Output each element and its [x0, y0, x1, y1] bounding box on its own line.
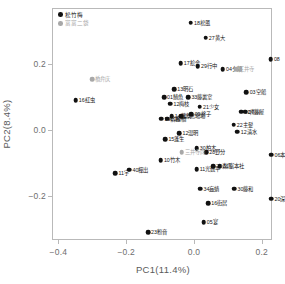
scatter-point[interactable]: [73, 98, 78, 103]
y-axis-title: PC2(8.4%): [1, 99, 12, 148]
scatter-point-label: 12温明: [182, 130, 198, 136]
scatter-point[interactable]: [180, 150, 185, 155]
scatter-point[interactable]: [179, 114, 184, 119]
scatter-point[interactable]: [235, 129, 240, 134]
scatter-point-label: 25念場場: [184, 113, 205, 119]
scatter-point-label: 20深夏: [275, 196, 285, 202]
scatter-point[interactable]: [231, 122, 236, 127]
scatter-point-label: 11宇: [119, 170, 130, 176]
scatter-point-label: 06本輪花: [275, 152, 285, 158]
scatter-point-label: 33藤裏室: [191, 94, 212, 100]
scatter-point[interactable]: [243, 109, 248, 114]
scatter-point[interactable]: [198, 187, 203, 192]
scatter-point[interactable]: [163, 137, 168, 142]
pca-scatter-chart: −0.4−0.20.00.20.20.0−0.2 PC1(11.4%) PC2(…: [0, 0, 285, 284]
scatter-point-label: 12梅枝: [174, 101, 190, 107]
y-tick-mark: [48, 130, 52, 131]
scatter-point-label: 橋弁庆: [95, 76, 110, 82]
scatter-point-label: 10竹木: [164, 157, 180, 163]
y-tick-label: −0.2: [24, 191, 46, 201]
scatter-point[interactable]: [234, 67, 239, 72]
scatter-point[interactable]: [269, 152, 274, 157]
scatter-point-label: 34蝱蜻: [204, 186, 220, 192]
scatter-point[interactable]: [172, 87, 177, 92]
scatter-point-label: 23粉音: [151, 229, 167, 235]
scatter-point-label: 16街居: [211, 200, 227, 206]
scatter-point-label: 15蓬生: [168, 136, 184, 142]
scatter-point-label: 03空船: [250, 89, 266, 95]
scatter-point-label: 01鯖魚: [167, 94, 183, 100]
scatter-point-label: 30藤和: [238, 186, 254, 192]
x-tick-label: −0.2: [117, 247, 135, 257]
scatter-point[interactable]: [244, 90, 249, 95]
x-tick-label: 0.2: [256, 247, 268, 257]
scatter-point[interactable]: [146, 230, 151, 235]
legend-item[interactable]: 富富二袋: [58, 20, 89, 28]
scatter-point[interactable]: [162, 95, 167, 100]
scatter-point[interactable]: [203, 35, 208, 40]
x-tick-mark: [262, 240, 263, 244]
scatter-point-label: 28野分: [209, 149, 225, 155]
y-tick-mark: [48, 64, 52, 65]
scatter-point[interactable]: [194, 167, 199, 172]
scatter-point-label: 16紅虫: [79, 97, 95, 103]
scatter-point-label: 40樿出: [133, 167, 149, 173]
scatter-point[interactable]: [158, 158, 163, 163]
scatter-point[interactable]: [113, 171, 118, 176]
scatter-point[interactable]: [159, 116, 164, 121]
scatter-point[interactable]: [232, 187, 237, 192]
legend-item[interactable]: 松竹梅: [58, 11, 89, 19]
x-tick-mark: [58, 240, 59, 244]
scatter-point-label: 26森黒: [216, 163, 232, 169]
scatter-point[interactable]: [177, 131, 182, 136]
legend-swatch-icon: [58, 12, 63, 17]
scatter-point[interactable]: [211, 164, 216, 169]
x-axis-title: PC1(11.4%): [136, 264, 190, 275]
scatter-point[interactable]: [186, 95, 191, 100]
y-tick-label: 0.2: [24, 59, 46, 69]
scatter-point-label: 18松風: [194, 20, 210, 26]
scatter-point[interactable]: [197, 104, 202, 109]
scatter-point[interactable]: [268, 57, 273, 62]
scatter-point-label: 08: [274, 56, 280, 62]
scatter-point[interactable]: [196, 64, 201, 69]
y-tick-mark: [48, 196, 52, 197]
scatter-point[interactable]: [178, 61, 183, 66]
scatter-point[interactable]: [201, 220, 206, 225]
x-tick-mark: [194, 240, 195, 244]
scatter-point-label: 07藤屋: [248, 109, 264, 115]
scatter-point-label: 12清水: [241, 129, 257, 135]
scatter-point[interactable]: [220, 67, 225, 72]
scatter-point[interactable]: [188, 20, 193, 25]
scatter-point[interactable]: [168, 101, 173, 106]
scatter-point-label: 三井寺向: [185, 149, 205, 155]
x-tick-label: −0.4: [50, 247, 68, 257]
scatter-point-label: 29行中: [201, 63, 217, 69]
scatter-point-label: 05宴: [207, 219, 218, 225]
scatter-point[interactable]: [165, 116, 170, 121]
scatter-point-label: 22主髪: [237, 122, 253, 128]
scatter-point-label: 三井寺: [239, 66, 254, 72]
scatter-point-label: 21少女: [203, 104, 219, 110]
legend-swatch-icon: [58, 21, 63, 26]
scatter-point[interactable]: [269, 197, 274, 202]
scatter-point[interactable]: [206, 201, 211, 206]
scatter-point[interactable]: [90, 77, 95, 82]
y-tick-label: 0.0: [24, 125, 46, 135]
x-tick-label: 0.0: [188, 247, 200, 257]
scatter-point-label: 27黄大: [209, 35, 225, 41]
scatter-point-label: 13明石: [177, 86, 193, 92]
legend-label: 松竹梅: [65, 11, 83, 19]
legend-label: 富富二袋: [65, 19, 89, 27]
legend: 松竹梅 富富二袋: [58, 11, 89, 28]
x-tick-mark: [126, 240, 127, 244]
